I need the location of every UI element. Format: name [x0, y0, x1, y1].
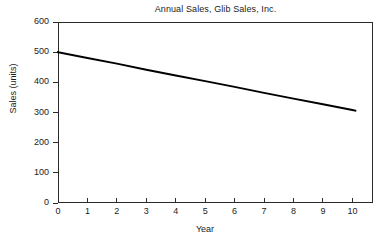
y-tick-mark [53, 82, 58, 83]
x-tick-label: 5 [195, 206, 215, 217]
y-tick-label: 600 [34, 16, 49, 27]
x-tick-mark [205, 198, 206, 203]
x-tick-label: 6 [225, 206, 245, 217]
x-tick-mark [87, 198, 88, 203]
y-tick-mark [53, 22, 58, 23]
x-tick-mark [116, 198, 117, 203]
plot-area [58, 22, 373, 203]
x-tick-label: 1 [77, 206, 97, 217]
y-tick-mark [53, 112, 58, 113]
x-tick-label: 10 [342, 206, 362, 217]
x-tick-label: 3 [136, 206, 156, 217]
x-tick-label: 2 [107, 206, 127, 217]
y-tick-mark [53, 142, 58, 143]
x-tick-label: 0 [48, 206, 68, 217]
x-tick-mark [58, 198, 59, 203]
y-tick-label: 400 [34, 76, 49, 87]
x-tick-mark [146, 198, 147, 203]
x-axis-label: Year [58, 224, 352, 235]
chart-title: Annual Sales, Glib Sales, Inc. [58, 3, 373, 15]
x-tick-label: 4 [166, 206, 186, 217]
y-tick-label: 100 [34, 167, 49, 178]
y-axis-label: Sales (units) [8, 29, 19, 149]
x-tick-label: 7 [254, 206, 274, 217]
x-tick-mark [264, 198, 265, 203]
x-tick-mark [175, 198, 176, 203]
x-tick-mark [352, 198, 353, 203]
x-tick-mark [293, 198, 294, 203]
x-tick-label: 8 [284, 206, 304, 217]
y-tick-label: 300 [34, 107, 49, 118]
y-tick-mark [53, 172, 58, 173]
y-tick-label: 500 [34, 46, 49, 57]
chart-container: Annual Sales, Glib Sales, Inc. Sales (un… [0, 0, 392, 247]
x-tick-mark [322, 198, 323, 203]
y-tick-mark [53, 52, 58, 53]
x-tick-mark [234, 198, 235, 203]
x-tick-label: 9 [313, 206, 333, 217]
y-tick-label: 200 [34, 137, 49, 148]
